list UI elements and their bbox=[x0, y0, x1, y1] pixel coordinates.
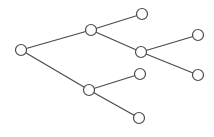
edge-a2-a2b bbox=[141, 52, 198, 75]
edge-a-a1 bbox=[91, 14, 142, 30]
edge-b-b2 bbox=[89, 90, 139, 118]
node-b bbox=[84, 85, 95, 96]
edge-a2-a2a bbox=[141, 35, 198, 52]
node-a bbox=[86, 25, 97, 36]
edge-b-b1 bbox=[89, 74, 140, 90]
node-b2 bbox=[134, 113, 145, 124]
edge-a-a2 bbox=[91, 30, 141, 52]
node-a2a bbox=[193, 30, 204, 41]
node-root bbox=[16, 45, 27, 56]
tree-edges bbox=[21, 14, 198, 118]
node-a2b bbox=[193, 70, 204, 81]
edge-root-b bbox=[21, 50, 89, 90]
node-a2 bbox=[136, 47, 147, 58]
tree-diagram bbox=[0, 0, 214, 137]
node-b1 bbox=[135, 69, 146, 80]
node-a1 bbox=[137, 9, 148, 20]
edge-root-a bbox=[21, 30, 91, 50]
